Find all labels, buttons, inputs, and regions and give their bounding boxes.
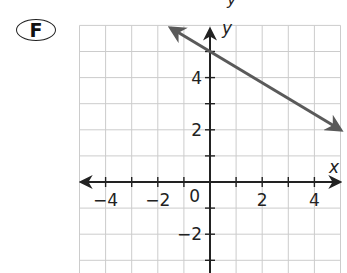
x-tick-label: −4 xyxy=(93,190,118,210)
figure: y F −4−22442−20xy xyxy=(0,0,347,273)
x-tick-label: −2 xyxy=(145,190,170,210)
y-axis-label: y xyxy=(221,18,233,38)
x-tick-label: 4 xyxy=(309,190,320,210)
x-tick-label: 2 xyxy=(257,190,268,210)
y-tick-label: −2 xyxy=(177,224,202,244)
coordinate-plane: −4−22442−20xy xyxy=(0,0,347,273)
axes xyxy=(82,29,340,273)
origin-label: 0 xyxy=(189,186,200,206)
y-tick-label: 2 xyxy=(191,120,202,140)
x-axis-label: x xyxy=(328,157,340,177)
y-tick-label: 4 xyxy=(191,68,202,88)
